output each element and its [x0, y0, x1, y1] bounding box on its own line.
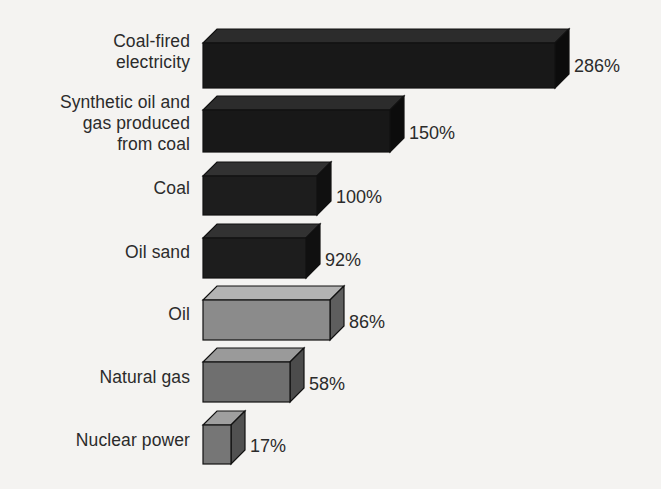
bar-front-face-2: [203, 176, 317, 215]
value-label-natural-gas: 58%: [309, 375, 345, 393]
bar-nuclear-power: [203, 411, 245, 464]
bar-oil-sand: [203, 224, 320, 278]
value-label-oil-sand: 92%: [325, 251, 361, 269]
bar-top-face-1: [203, 96, 404, 110]
value-label-nuclear-power: 17%: [250, 437, 286, 455]
value-label-oil: 86%: [349, 313, 385, 331]
value-label-coal: 100%: [336, 188, 382, 206]
bar-top-face-4: [203, 286, 344, 300]
bar-front-face-3: [203, 238, 306, 278]
bar-coal: [203, 162, 331, 215]
bar-top-face-3: [203, 224, 320, 238]
value-label-synthetic-oil-and-gas: 150%: [409, 124, 455, 142]
bar-front-face-0: [203, 43, 555, 88]
bar-front-face-1: [203, 110, 390, 152]
bar-front-face-6: [203, 425, 231, 464]
bar-synthetic-oil-and-gas: [203, 96, 404, 152]
bar-coal-fired-electricity: [203, 29, 569, 88]
bar-oil: [203, 286, 344, 340]
bar-chart: Coal-fired electricity Synthetic oil and…: [0, 0, 661, 489]
bar-natural-gas: [203, 348, 304, 402]
bar-top-face-2: [203, 162, 331, 176]
value-label-coal-fired-electricity: 286%: [574, 57, 620, 75]
bar-front-face-4: [203, 300, 330, 340]
bar-front-face-5: [203, 362, 290, 402]
bar-top-face-5: [203, 348, 304, 362]
bars-group: [0, 0, 661, 489]
bar-top-face-0: [203, 29, 569, 43]
